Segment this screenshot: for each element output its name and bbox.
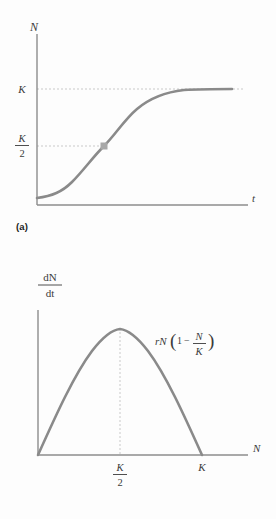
formula-minus: − [184, 335, 190, 346]
logistic-growth-curve [37, 89, 232, 198]
panel-b-x-axis-label: N [252, 442, 261, 454]
inflection-point-marker [101, 143, 108, 150]
x-tick-label-K-over-2-denominator: 2 [117, 477, 122, 488]
y-tick-label-K-over-2-numerator: K [17, 133, 26, 144]
y-tick-label-K: K [17, 83, 26, 95]
x-tick-label-K-over-2-numerator: K [115, 462, 124, 473]
panel-b-growth-rate-chart: dN dt N K 2 K rN ( 1 − N K ) (b) [0, 255, 276, 519]
panel-a-y-axis-label: N [29, 20, 39, 34]
formula-one: 1 [177, 335, 182, 346]
growth-rate-formula-annotation: rN ( 1 − N K ) [155, 330, 214, 357]
panel-a-logistic-growth-chart: N t K K 2 (a) [0, 0, 276, 255]
panel-a-caption: (a) [16, 221, 28, 232]
panel-a-x-axis-label: t [252, 192, 256, 204]
formula-prefix: rN [155, 335, 167, 347]
formula-open-paren: ( [170, 330, 176, 352]
panel-b-y-axis-label-denominator: dt [46, 287, 55, 299]
panel-a-svg: N t K K 2 [0, 0, 276, 255]
formula-fraction-denominator: K [194, 346, 203, 357]
y-tick-label-K-over-2-denominator: 2 [19, 148, 24, 159]
figure-page: N t K K 2 (a) dN dt [0, 0, 276, 519]
panel-b-svg: dN dt N K 2 K rN ( 1 − N K ) [0, 255, 276, 519]
formula-fraction-numerator: N [194, 331, 203, 342]
x-tick-label-K: K [197, 461, 206, 473]
panel-b-y-axis-label-numerator: dN [43, 271, 57, 283]
formula-close-paren: ) [208, 330, 214, 352]
